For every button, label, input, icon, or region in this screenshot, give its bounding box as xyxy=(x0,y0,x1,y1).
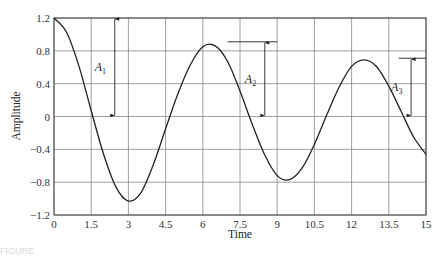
amplitude-label: A2 xyxy=(244,72,256,88)
y-tick-label: 0.4 xyxy=(36,78,50,90)
x-tick-label: 1.5 xyxy=(84,218,98,230)
x-tick-label: 10.5 xyxy=(305,218,325,230)
y-tick-label: 0.8 xyxy=(36,45,50,57)
x-tick-label: 4.5 xyxy=(159,218,173,230)
x-tick-label: 15 xyxy=(421,218,433,230)
figure-caption-fragment: FIGURE xyxy=(0,246,34,256)
x-tick-label: 12 xyxy=(346,218,357,230)
x-tick-label: 9 xyxy=(274,218,280,230)
x-axis-title: Time xyxy=(228,228,252,240)
x-tick-label: 6 xyxy=(200,218,206,230)
y-axis-title: Amplitude xyxy=(10,91,23,140)
amplitude-marker-a1: A1 xyxy=(94,19,115,116)
amplitude-label: A1 xyxy=(94,60,106,76)
x-tick-label: 13.5 xyxy=(379,218,399,230)
y-axis-ticks: 1.20.80.40−0.4−0.8−1.2 xyxy=(30,12,50,221)
plot-grid xyxy=(54,18,426,215)
amplitude-marker-a3: A3 xyxy=(390,58,426,115)
y-tick-label: 1.2 xyxy=(36,12,50,24)
y-tick-label: −0.8 xyxy=(30,176,50,188)
y-tick-label: −1.2 xyxy=(30,209,50,221)
x-tick-label: 0 xyxy=(51,218,57,230)
amplitude-label: A3 xyxy=(390,80,402,96)
amplitude-annotations: A1A2A3 xyxy=(94,19,426,116)
x-tick-label: 3 xyxy=(126,218,132,230)
y-tick-label: −0.4 xyxy=(30,143,50,155)
y-tick-label: 0 xyxy=(45,111,51,123)
damped-oscillation-chart: 1.20.80.40−0.4−0.8−1.2 01.534.567.5910.5… xyxy=(0,0,444,258)
